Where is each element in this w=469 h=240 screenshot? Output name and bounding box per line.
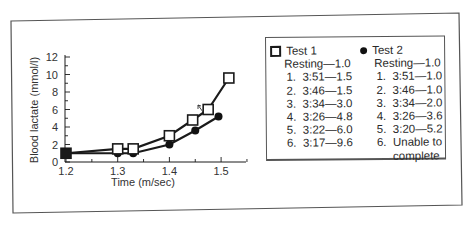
- legend-resting: Resting—1.0: [360, 57, 442, 71]
- y-axis-tick-labels: 024681012: [46, 51, 58, 168]
- data-point-circle: [191, 127, 199, 135]
- legend-resting: Resting—1.0: [270, 57, 352, 71]
- legend-item: 4.3:26—4.8: [271, 110, 353, 124]
- filled-circle-marker-icon: [360, 47, 367, 54]
- data-point-circle: [165, 141, 173, 149]
- data-point-overlap: [61, 148, 71, 158]
- svg-text:4: 4: [52, 121, 58, 133]
- data-point-circle: [215, 113, 223, 121]
- x-axis-ticks: [66, 157, 247, 162]
- series-test-1: [61, 73, 234, 158]
- data-point-square: [203, 105, 213, 115]
- data-point-square: [188, 115, 198, 125]
- y-axis-ticks: [65, 57, 70, 162]
- svg-text:6: 6: [52, 104, 58, 116]
- svg-text:1.2: 1.2: [58, 165, 73, 177]
- legend-test-2: Test 2 Resting—1.0 1.3:51—1.0 2.3:46—1.0…: [360, 43, 443, 163]
- y-axis-label: Blood lactate (mmol/l): [28, 57, 40, 163]
- svg-text:8: 8: [52, 86, 58, 98]
- legend-item-continuation: complete: [361, 149, 443, 163]
- legend-item: 2.3:46—1.0: [360, 83, 442, 97]
- x-axis-label: Time (m/sec): [111, 176, 175, 188]
- data-point-square: [224, 73, 234, 83]
- data-point-square: [164, 131, 174, 141]
- legend-item: 6.3:17—9.6: [271, 137, 353, 151]
- arrow-annotation: [198, 105, 203, 112]
- svg-text:10: 10: [46, 69, 58, 81]
- legend-item: 5.3:20—5.2: [361, 123, 443, 137]
- legend-item: 1.3:51—1.5: [270, 71, 352, 85]
- legend-item: 3.3:34—2.0: [361, 96, 443, 110]
- legend-label: Test 2: [372, 44, 403, 57]
- legend-item: 5.3:22—6.0: [271, 123, 353, 137]
- legend-item: 6.Unable to: [361, 136, 443, 150]
- data-point-square: [113, 144, 123, 154]
- svg-text:12: 12: [46, 51, 58, 63]
- svg-text:0: 0: [52, 156, 58, 168]
- legend-item: 3.3:34—3.0: [271, 97, 353, 111]
- x-axis: 1.21.31.41.5 Time (m/sec): [58, 157, 247, 188]
- legend-item: 2.3:46—1.5: [270, 84, 352, 98]
- legend-label: Test 1: [286, 45, 317, 58]
- svg-text:1.5: 1.5: [213, 165, 228, 177]
- open-square-marker-icon: [270, 46, 281, 57]
- legend-item: 1.3:51—1.0: [360, 70, 442, 84]
- legend-box: Test 1 Resting—1.0 1.3:51—1.5 2.3:46—1.5…: [265, 35, 446, 161]
- data-point-square: [128, 144, 138, 154]
- svg-text:2: 2: [52, 139, 58, 151]
- legend-item: 4.3:26—3.6: [361, 109, 443, 123]
- legend-test-1: Test 1 Resting—1.0 1.3:51—1.5 2.3:46—1.5…: [270, 44, 353, 150]
